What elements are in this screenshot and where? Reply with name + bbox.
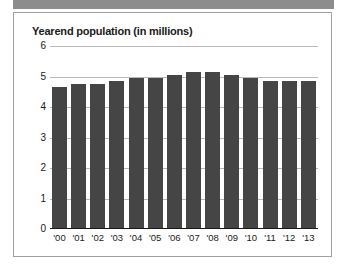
bar-01 <box>71 84 86 227</box>
x-axis-tick: '11 <box>263 232 278 243</box>
x-axis-tick: '05 <box>148 232 163 243</box>
bar-06 <box>167 75 182 228</box>
bar-11 <box>263 81 278 227</box>
bar-13 <box>301 81 316 227</box>
x-axis-tick: '01 <box>71 232 86 243</box>
bar-series <box>50 45 318 228</box>
y-axis-tick: 5 <box>40 72 46 82</box>
x-axis-tick: '08 <box>205 232 220 243</box>
bar-00 <box>52 87 67 227</box>
y-axis-tick: 3 <box>40 133 46 143</box>
x-axis-tick: '00 <box>52 232 67 243</box>
x-axis-tick: '09 <box>224 232 239 243</box>
chart-title: Yearend population (in millions) <box>32 25 192 37</box>
grid-area <box>50 46 318 229</box>
y-axis-tick: 1 <box>40 194 46 204</box>
x-axis-line <box>50 228 318 230</box>
x-axis-tick: '12 <box>282 232 297 243</box>
x-axis-tick: '04 <box>129 232 144 243</box>
x-axis-tick: '13 <box>301 232 316 243</box>
y-axis-tick: 2 <box>40 163 46 173</box>
x-axis-tick: '07 <box>186 232 201 243</box>
x-axis-tick: '10 <box>243 232 258 243</box>
top-banner <box>13 0 334 9</box>
bar-12 <box>282 81 297 227</box>
y-axis-tick: 4 <box>40 102 46 112</box>
bar-10 <box>243 78 258 227</box>
y-axis-labels: 6543210 <box>32 46 48 229</box>
bar-07 <box>186 72 201 228</box>
chart-figure: Yearend population (in millions) 6543210… <box>0 0 348 276</box>
x-axis-labels: '00'01'02'03'04'05'06'07'08'09'10'11'12'… <box>50 232 318 243</box>
x-axis-tick: '03 <box>109 232 124 243</box>
bar-04 <box>129 78 144 227</box>
bar-08 <box>205 72 220 228</box>
y-axis-tick: 6 <box>40 41 46 51</box>
bar-03 <box>109 81 124 227</box>
chart-panel: Yearend population (in millions) 6543210… <box>13 12 332 257</box>
y-axis-tick: 0 <box>40 224 46 234</box>
plot-area: 6543210 '00'01'02'03'04'05'06'07'08'09'1… <box>32 46 320 241</box>
x-axis-tick: '06 <box>167 232 182 243</box>
bar-05 <box>148 78 163 227</box>
x-axis-tick: '02 <box>90 232 105 243</box>
bar-09 <box>224 75 239 228</box>
bar-02 <box>90 84 105 227</box>
